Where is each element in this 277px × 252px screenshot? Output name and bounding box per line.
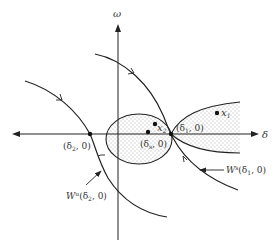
label-stable-manifold: Ws(δ1, 0) (226, 164, 266, 176)
label-deltas: (δs, 0) (140, 139, 167, 150)
delta-axis-arrow-left-icon (12, 131, 20, 137)
omega-axis-arrow-icon (115, 24, 121, 32)
delta-axis-arrow-right-icon (251, 131, 259, 137)
label-unstable-manifold: Wu(δ2, 0) (66, 190, 107, 202)
unstable-manifold-arrow-lower-icon (98, 155, 105, 156)
point-delta1 (169, 132, 173, 136)
label-delta2: (δ2, 0) (63, 141, 91, 152)
omega-axis-label: ω (113, 8, 121, 19)
point-delta2 (88, 132, 92, 136)
label-delta1: (δ1, 0) (176, 123, 204, 134)
phase-portrait-diagram: δ ω (δ2, 0) (δs, 0) (δ1, 0) x2 x1 Ws(δ1,… (0, 0, 277, 252)
delta-axis-label: δ (262, 129, 268, 140)
point-deltas (146, 130, 150, 134)
point-x1 (215, 111, 219, 115)
unstable-manifold-pointer (86, 171, 101, 185)
